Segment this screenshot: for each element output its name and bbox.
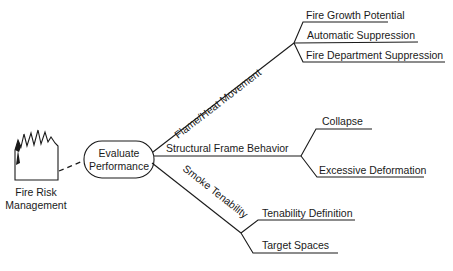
leaf-excessive-deformation: Excessive Deformation (319, 164, 427, 176)
hub-label-line1: Evaluate (99, 147, 140, 159)
leaf-tenability-definition-line (241, 220, 355, 233)
leaf-collapse: Collapse (322, 115, 363, 127)
leaf-collapse-line (301, 129, 372, 156)
branch-structural-label: Structural Frame Behavior (166, 142, 289, 154)
leaf-automatic-suppression-line (294, 42, 418, 43)
leaf-fire-department-suppression: Fire Department Suppression (306, 49, 443, 61)
branch-smoke-label: Smoke Tenability (181, 162, 251, 221)
root-label-line2: Management (5, 199, 66, 211)
root-label-line1: Fire Risk (15, 186, 57, 198)
leaf-target-spaces: Target Spaces (262, 239, 329, 251)
hub-label-line2: Performance (89, 160, 149, 172)
leaf-tenability-definition: Tenability Definition (262, 207, 353, 219)
branch-flame-heat-label: Flame/Heat Movement (172, 66, 263, 140)
fire-risk-tree-diagram: Fire Risk Management Evaluate Performanc… (0, 0, 453, 271)
leaf-fire-growth-potential: Fire Growth Potential (306, 9, 405, 21)
leaf-automatic-suppression: Automatic Suppression (307, 29, 415, 41)
root-hub-connector (59, 161, 83, 171)
building-on-fire-icon (15, 130, 58, 180)
